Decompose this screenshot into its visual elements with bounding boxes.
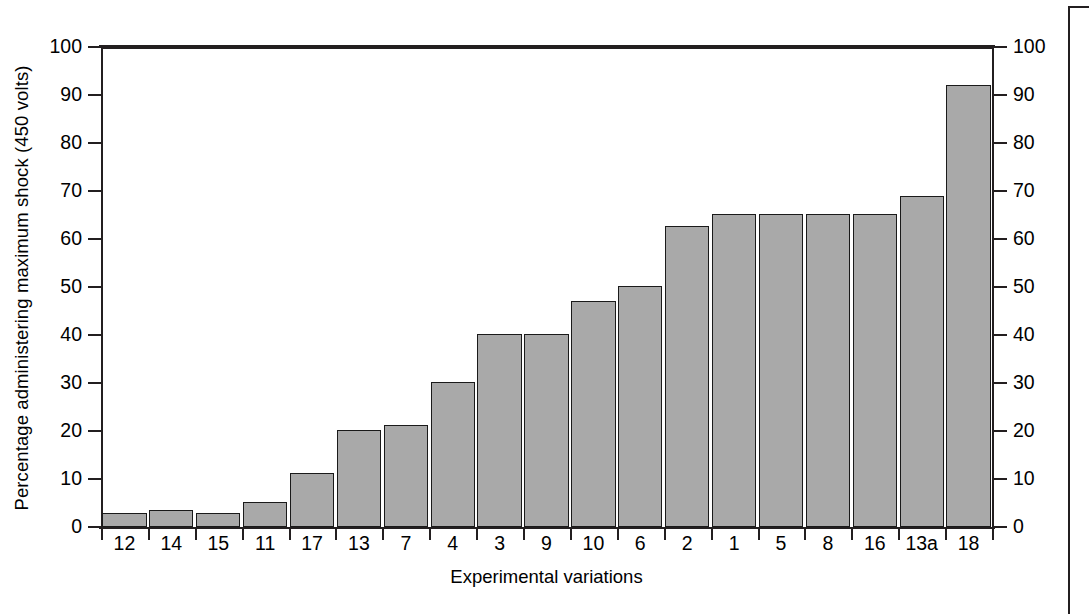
x-tick-label: 9 [523, 534, 570, 554]
bar [384, 425, 428, 527]
x-tick-label: 5 [758, 534, 805, 554]
y-tick-left [88, 334, 101, 336]
page-border-rule [1068, 6, 1089, 614]
y-tick-left [88, 286, 101, 288]
bar [665, 226, 709, 527]
x-axis-title: Experimental variations [101, 566, 992, 588]
bar [102, 513, 146, 527]
y-tick-label-right: 50 [1013, 277, 1065, 297]
bar [853, 214, 897, 527]
y-tick-left [88, 478, 101, 480]
x-tick-label: 6 [617, 534, 664, 554]
x-tick [992, 529, 994, 540]
x-tick-label: 17 [289, 534, 336, 554]
y-tick-left [88, 94, 101, 96]
bar [149, 510, 193, 527]
y-tick-left [88, 142, 101, 144]
y-tick-right [993, 94, 1007, 96]
y-tick-label-right: 0 [1013, 517, 1065, 537]
y-tick-left [88, 190, 101, 192]
x-tick-label: 1 [711, 534, 758, 554]
y-tick-right [993, 478, 1007, 480]
x-tick-label: 11 [242, 534, 289, 554]
axis-spine-bottom [99, 527, 995, 529]
x-tick-label: 3 [476, 534, 523, 554]
y-tick-right [993, 142, 1007, 144]
bar [243, 502, 287, 527]
y-tick-label-right: 80 [1013, 133, 1065, 153]
bar [290, 473, 334, 527]
y-tick-label-right: 20 [1013, 421, 1065, 441]
x-tick-label: 7 [382, 534, 429, 554]
bar [618, 286, 662, 527]
y-axis-title: Percentage administering maximum shock (… [11, 28, 33, 548]
x-tick-label: 18 [945, 534, 992, 554]
y-tick-label-right: 40 [1013, 325, 1065, 345]
y-tick-label-right: 10 [1013, 469, 1065, 489]
y-tick-right [993, 382, 1007, 384]
y-tick-right [993, 286, 1007, 288]
bar [196, 513, 240, 527]
bar [431, 382, 475, 527]
bar [524, 334, 568, 527]
x-tick-label: 2 [664, 534, 711, 554]
bar [900, 196, 944, 527]
y-tick-left [88, 238, 101, 240]
y-tick-label-right: 70 [1013, 181, 1065, 201]
y-tick-label-right: 30 [1013, 373, 1065, 393]
y-tick-label-right: 60 [1013, 229, 1065, 249]
bars-layer [101, 47, 992, 527]
x-tick-label: 10 [570, 534, 617, 554]
y-tick-left [88, 382, 101, 384]
bar [806, 214, 850, 527]
y-tick-label-right: 100 [1013, 37, 1065, 57]
bar [759, 214, 803, 527]
x-tick-label: 16 [851, 534, 898, 554]
x-tick-label: 8 [804, 534, 851, 554]
bar [337, 430, 381, 527]
bar [946, 85, 990, 527]
y-tick-right [993, 238, 1007, 240]
y-tick-right [993, 430, 1007, 432]
y-tick-right [993, 46, 1007, 48]
bar [571, 301, 615, 527]
y-tick-right [993, 334, 1007, 336]
x-tick-label: 13 [335, 534, 382, 554]
x-tick-label: 12 [101, 534, 148, 554]
x-tick-label: 13a [898, 534, 945, 554]
y-tick-right [993, 526, 1007, 528]
x-tick-label: 14 [148, 534, 195, 554]
x-tick-label: 15 [195, 534, 242, 554]
y-tick-label-right: 90 [1013, 85, 1065, 105]
bar [477, 334, 521, 527]
y-tick-left [88, 430, 101, 432]
y-tick-right [993, 190, 1007, 192]
figure-bar-chart: Percentage administering maximum shock (… [0, 0, 1089, 614]
x-tick-label: 4 [429, 534, 476, 554]
bar [712, 214, 756, 527]
axis-spine-right [992, 45, 994, 529]
